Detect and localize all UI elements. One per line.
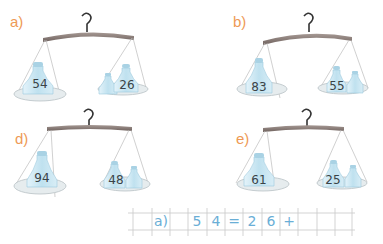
weight-e-left: 61 <box>251 173 266 187</box>
weight-a-right: 26 <box>119 78 134 92</box>
grid-cell[interactable] <box>133 213 151 230</box>
grid-cell[interactable] <box>317 213 335 230</box>
grid-cell[interactable] <box>298 213 316 230</box>
label-a: a) <box>10 13 23 30</box>
label-b: b) <box>233 13 246 30</box>
grid-cell[interactable]: a) <box>152 213 170 230</box>
scales-illustration: 54 26 83 55 94 48 61 25 <box>0 0 383 244</box>
beam <box>43 32 134 42</box>
weight-a-left: 54 <box>32 77 47 91</box>
weight-d-right: 48 <box>108 173 123 187</box>
hook-icon <box>84 109 93 127</box>
hook-icon <box>82 13 91 32</box>
hook-icon <box>304 13 313 32</box>
grid-cell[interactable]: 6 <box>262 213 280 230</box>
beam <box>263 125 344 132</box>
grid-cell[interactable]: + <box>280 213 298 230</box>
grid-cell[interactable] <box>335 213 353 230</box>
label-d: d) <box>15 130 28 147</box>
grid-cell[interactable]: 2 <box>243 213 261 230</box>
weight-b-left: 83 <box>251 80 266 94</box>
weight-d-left: 94 <box>34 171 49 185</box>
beam <box>263 34 352 45</box>
grid-cell[interactable] <box>170 213 188 230</box>
weight-e-right: 25 <box>325 173 340 187</box>
weight-b-right: 55 <box>329 79 344 93</box>
grid-cell[interactable]: 4 <box>207 213 225 230</box>
label-e: e) <box>236 130 249 147</box>
hook-icon <box>302 109 311 127</box>
beam <box>47 125 132 131</box>
grid-cell[interactable]: = <box>225 213 243 230</box>
grid-cell[interactable]: 5 <box>188 213 206 230</box>
